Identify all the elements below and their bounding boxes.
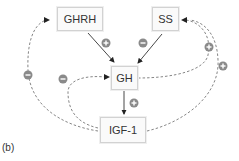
minus-icon (139, 39, 148, 48)
node-igf1: IGF-1 (100, 117, 146, 143)
node-ss-label: SS (158, 13, 173, 25)
plus-icon (205, 43, 214, 52)
figure-label: (b) (2, 142, 14, 153)
minus-icon (59, 75, 68, 84)
node-igf1-label: IGF-1 (109, 124, 137, 136)
node-ghrh: GHRH (57, 7, 103, 31)
arrow-ghrh-to-gh (88, 33, 114, 62)
node-ghrh-label: GHRH (64, 13, 96, 25)
minus-icon (24, 71, 33, 80)
plus-icon (219, 62, 228, 71)
feedback-igf1-to-ghrh-head (44, 17, 50, 23)
feedback-igf1-to-gh-head (104, 74, 110, 80)
node-ss: SS (152, 7, 179, 31)
plus-icon (130, 99, 139, 108)
node-gh-label: GH (116, 72, 133, 84)
arrow-ss-to-gh (138, 34, 162, 63)
node-gh: GH (111, 66, 138, 90)
feedback-gh-to-ss-head (181, 17, 187, 23)
plus-icon (102, 39, 111, 48)
feedback-igf1-to-ss (147, 20, 218, 131)
